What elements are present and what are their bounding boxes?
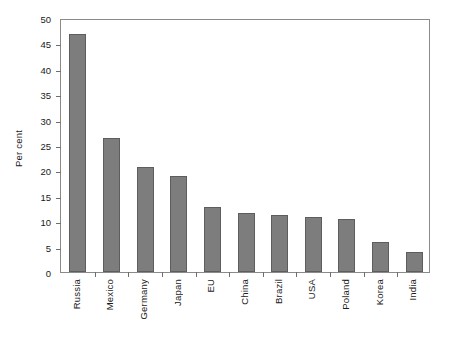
y-tick-label: 35 bbox=[25, 91, 51, 101]
x-tick-mark bbox=[128, 272, 129, 277]
y-tick-mark bbox=[56, 172, 61, 173]
x-tick-label: Poland bbox=[340, 279, 352, 310]
y-tick-label: 0 bbox=[25, 269, 51, 279]
y-tick-label: 40 bbox=[25, 66, 51, 76]
bar bbox=[204, 207, 221, 272]
x-tick-label: Japan bbox=[172, 279, 184, 306]
y-tick-label: 15 bbox=[25, 193, 51, 203]
x-tick-mark bbox=[162, 272, 163, 277]
bar bbox=[69, 34, 86, 272]
x-tick-label: Brazil bbox=[273, 279, 285, 304]
x-tick-mark bbox=[196, 272, 197, 277]
x-tick-label: Russia bbox=[71, 279, 83, 309]
x-tick-label: India bbox=[407, 279, 419, 301]
x-tick-label: Mexico bbox=[104, 279, 116, 310]
y-tick-label: 10 bbox=[25, 218, 51, 228]
y-tick-label: 45 bbox=[25, 40, 51, 50]
x-tick-label: USA bbox=[306, 279, 318, 299]
bar bbox=[372, 242, 389, 272]
bar bbox=[338, 219, 355, 272]
bar bbox=[170, 176, 187, 272]
bar bbox=[305, 217, 322, 272]
x-tick-label: Korea bbox=[374, 279, 386, 305]
bar bbox=[103, 138, 120, 272]
y-tick-label: 25 bbox=[25, 142, 51, 152]
x-tick-mark bbox=[330, 272, 331, 277]
y-tick-mark bbox=[56, 223, 61, 224]
x-tick-mark bbox=[296, 272, 297, 277]
x-tick-label: EU bbox=[205, 279, 217, 293]
y-tick-mark bbox=[56, 249, 61, 250]
y-axis-title: Per cent bbox=[12, 114, 26, 184]
bar-chart-figure: Per cent 05101520253035404550 RussiaMexi… bbox=[0, 0, 455, 342]
plot-area: 05101520253035404550 bbox=[60, 19, 430, 273]
y-tick-mark bbox=[56, 122, 61, 123]
y-tick-mark bbox=[56, 147, 61, 148]
x-tick-mark bbox=[397, 272, 398, 277]
y-tick-mark bbox=[56, 96, 61, 97]
x-tick-label: Germany bbox=[138, 279, 150, 319]
y-tick-mark bbox=[56, 45, 61, 46]
y-tick-label: 5 bbox=[25, 244, 51, 254]
x-tick-mark bbox=[229, 272, 230, 277]
y-tick-mark bbox=[56, 198, 61, 199]
bar bbox=[406, 252, 423, 272]
x-tick-mark bbox=[95, 272, 96, 277]
x-tick-label: China bbox=[239, 279, 251, 305]
bar bbox=[137, 167, 154, 272]
bar bbox=[271, 215, 288, 272]
y-tick-label: 50 bbox=[25, 15, 51, 25]
x-tick-mark bbox=[263, 272, 264, 277]
y-tick-label: 20 bbox=[25, 167, 51, 177]
bar bbox=[238, 213, 255, 272]
y-tick-mark bbox=[56, 71, 61, 72]
y-tick-label: 30 bbox=[25, 117, 51, 127]
x-tick-mark bbox=[364, 272, 365, 277]
